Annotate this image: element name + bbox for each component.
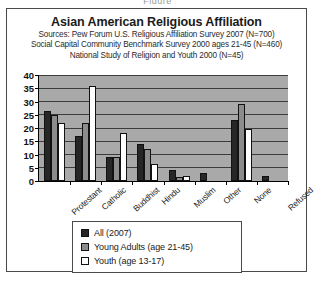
y-tick-label: 10	[23, 150, 34, 159]
bar	[245, 129, 252, 181]
bar	[144, 149, 151, 181]
bar	[200, 173, 207, 181]
source-line-3: National Study of Religion and Youth 200…	[7, 51, 306, 61]
bar	[231, 120, 238, 181]
plot-wrapper: 0510152025303540 ProtestantCatholicBuddh…	[7, 75, 306, 201]
bar	[169, 170, 176, 181]
y-tick-mark	[35, 181, 39, 182]
figure-frame: Asian American Religious Affiliation Sou…	[6, 8, 307, 272]
bar-group	[257, 75, 288, 181]
bar	[183, 176, 190, 181]
bar	[89, 86, 96, 181]
legend-label: Young Adults (age 21-45)	[94, 242, 193, 253]
bar	[151, 164, 158, 181]
x-axis-tick-label: Muslim	[192, 185, 218, 210]
legend-item: All (2007)	[81, 226, 235, 240]
bar-group	[101, 75, 132, 181]
bar	[120, 133, 127, 181]
chart-title: Asian American Religious Affiliation	[7, 15, 306, 30]
bar-group	[70, 75, 101, 181]
y-tick-label: 25	[23, 110, 34, 119]
legend-label: All (2007)	[94, 228, 132, 239]
legend-swatch-icon	[81, 257, 89, 265]
chart-header: Asian American Religious Affiliation Sou…	[7, 9, 306, 61]
bar	[82, 123, 89, 181]
y-tick-label: 30	[23, 97, 34, 106]
bar-group	[195, 75, 226, 181]
y-tick-label: 15	[23, 137, 34, 146]
bar-group	[39, 75, 70, 181]
bar	[176, 177, 183, 181]
plot-area	[38, 75, 288, 182]
y-tick-label: 20	[23, 124, 34, 133]
bar-group	[132, 75, 163, 181]
x-axis-tick-label: None	[252, 185, 273, 206]
y-tick-label: 5	[29, 163, 34, 172]
x-axis-tick-label: Buddhist	[131, 185, 161, 213]
bar-group	[164, 75, 195, 181]
x-axis-tick-label: Catholic	[99, 185, 127, 212]
x-tick-mark	[288, 181, 289, 185]
x-axis-tick-label: Other	[221, 185, 243, 206]
bar	[137, 144, 144, 181]
bar-group	[226, 75, 257, 181]
y-axis: 0510152025303540	[7, 75, 37, 181]
legend-swatch-icon	[81, 243, 89, 251]
bar	[51, 115, 58, 181]
legend-label: Youth (age 13-17)	[94, 256, 164, 267]
x-axis-tick-label: Protestant	[70, 185, 104, 217]
bars-layer	[39, 75, 288, 181]
bar	[58, 123, 65, 181]
bar	[262, 176, 269, 181]
y-tick-label: 35	[23, 84, 34, 93]
x-axis-tick-label: Hindu	[159, 185, 181, 207]
source-line-2: Social Capital Community Benchmark Surve…	[7, 40, 306, 50]
bar	[238, 104, 245, 181]
chart-legend: All (2007)Young Adults (age 21-45)Youth …	[72, 221, 242, 273]
y-tick-label: 0	[29, 177, 34, 186]
bar	[113, 157, 120, 181]
bar	[106, 157, 113, 181]
legend-swatch-icon	[81, 229, 89, 237]
bar	[44, 111, 51, 181]
figure-caption: Figure	[0, 0, 315, 4]
legend-item: Youth (age 13-17)	[81, 254, 235, 268]
source-line-1: Sources: Pew Forum U.S. Religious Affili…	[7, 30, 306, 40]
legend-item: Young Adults (age 21-45)	[81, 240, 235, 254]
y-tick-label: 40	[23, 71, 34, 80]
bar	[75, 136, 82, 181]
x-axis-tick-label: Refused	[286, 185, 315, 213]
